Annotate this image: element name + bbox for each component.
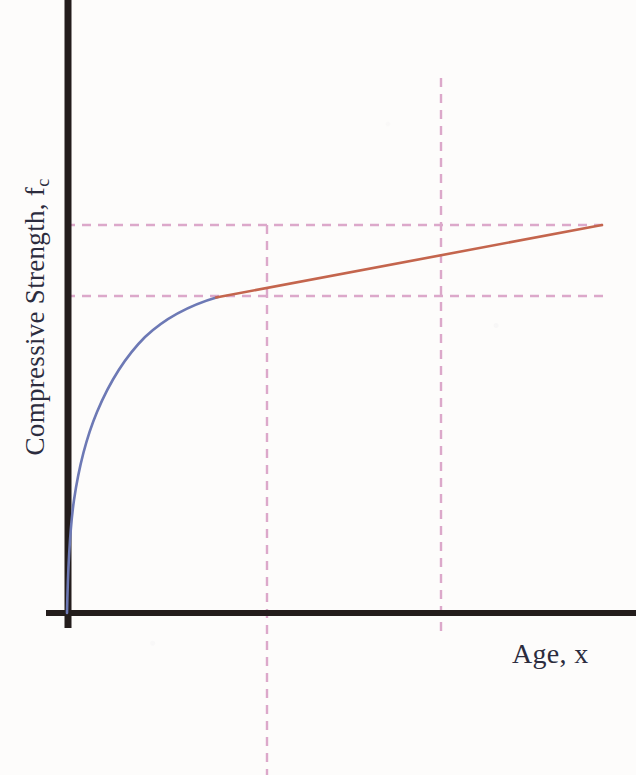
x-axis-label-text: Age, x: [512, 638, 588, 669]
compressive-strength-vs-age-figure: Compressive Strength, fc Age, x: [0, 0, 636, 775]
x-axis-label: Age, x: [512, 638, 588, 670]
later-age-strength-line: [216, 225, 602, 298]
early-age-strength-curve: [67, 297, 218, 613]
